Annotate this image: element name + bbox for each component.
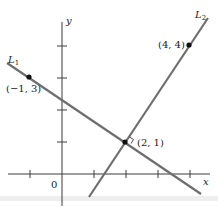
right-angle-marker — [130, 137, 134, 144]
coordinate-diagram: x y 0 (−1, 3) (2, 1) (4, 4) L1 L2 — [0, 0, 218, 210]
point-label-neg1-3: (−1, 3) — [6, 83, 41, 94]
point-neg1-3 — [26, 74, 31, 79]
point-label-2-1: (2, 1) — [137, 137, 164, 148]
scan-band — [0, 196, 218, 201]
origin-label: 0 — [51, 179, 57, 190]
y-axis-label: y — [65, 15, 72, 26]
point-2-1 — [122, 139, 127, 144]
line-label-l2: L2 — [194, 9, 206, 22]
point-4-4 — [186, 42, 191, 47]
x-axis-label: x — [203, 176, 209, 187]
point-label-4-4: (4, 4) — [158, 39, 185, 50]
